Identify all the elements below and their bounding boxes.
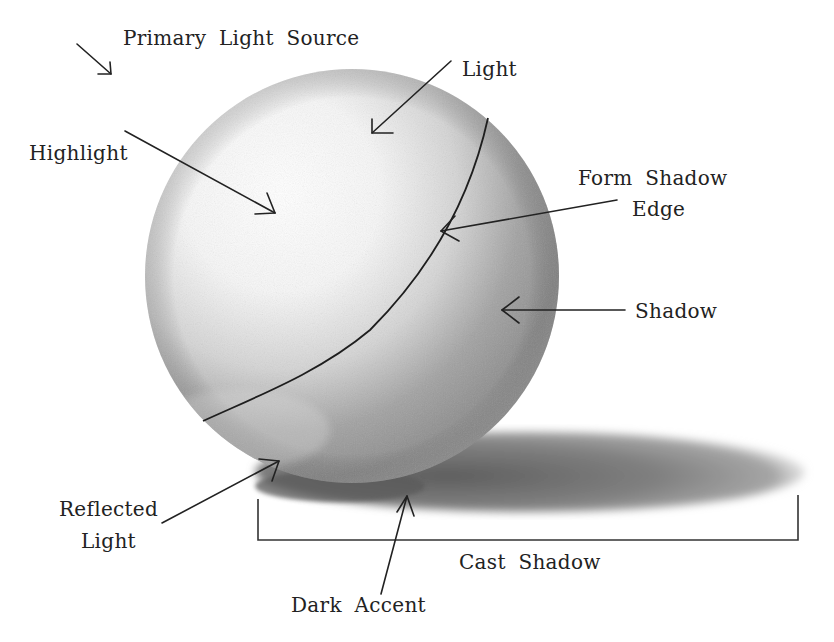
label-shadow: Shadow xyxy=(635,299,717,323)
primary-light-source-arrow xyxy=(77,44,111,74)
label-dark-accent: Dark Accent xyxy=(291,593,426,617)
label-cast-shadow: Cast Shadow xyxy=(459,550,601,574)
label-reflected-light-line1: Reflected xyxy=(59,497,158,521)
sphere xyxy=(140,60,570,490)
label-primary-light-source: Primary Light Source xyxy=(123,26,360,50)
label-form-shadow-edge-line2: Edge xyxy=(632,197,685,221)
label-highlight: Highlight xyxy=(29,141,128,165)
label-light: Light xyxy=(462,57,517,81)
label-form-shadow-edge-line1: Form Shadow xyxy=(578,166,727,190)
dark-accent-arrow xyxy=(381,496,414,594)
sphere-shading-diagram: Primary Light Source Light Highlight For… xyxy=(0,0,834,642)
label-reflected-light-line2: Light xyxy=(81,529,136,553)
